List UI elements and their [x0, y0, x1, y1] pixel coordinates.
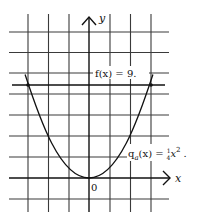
y-axis-label: y: [98, 12, 106, 25]
intersection-point-right: [149, 83, 153, 87]
origin-label: 0: [91, 182, 97, 193]
intersection-point-left: [26, 83, 30, 87]
parabola-chart: y x 0 f(x) = 9. qa(x) = 14x2.: [0, 0, 198, 212]
x-axis-label: x: [175, 172, 182, 185]
f-line-label: f(x) = 9.: [95, 68, 136, 79]
